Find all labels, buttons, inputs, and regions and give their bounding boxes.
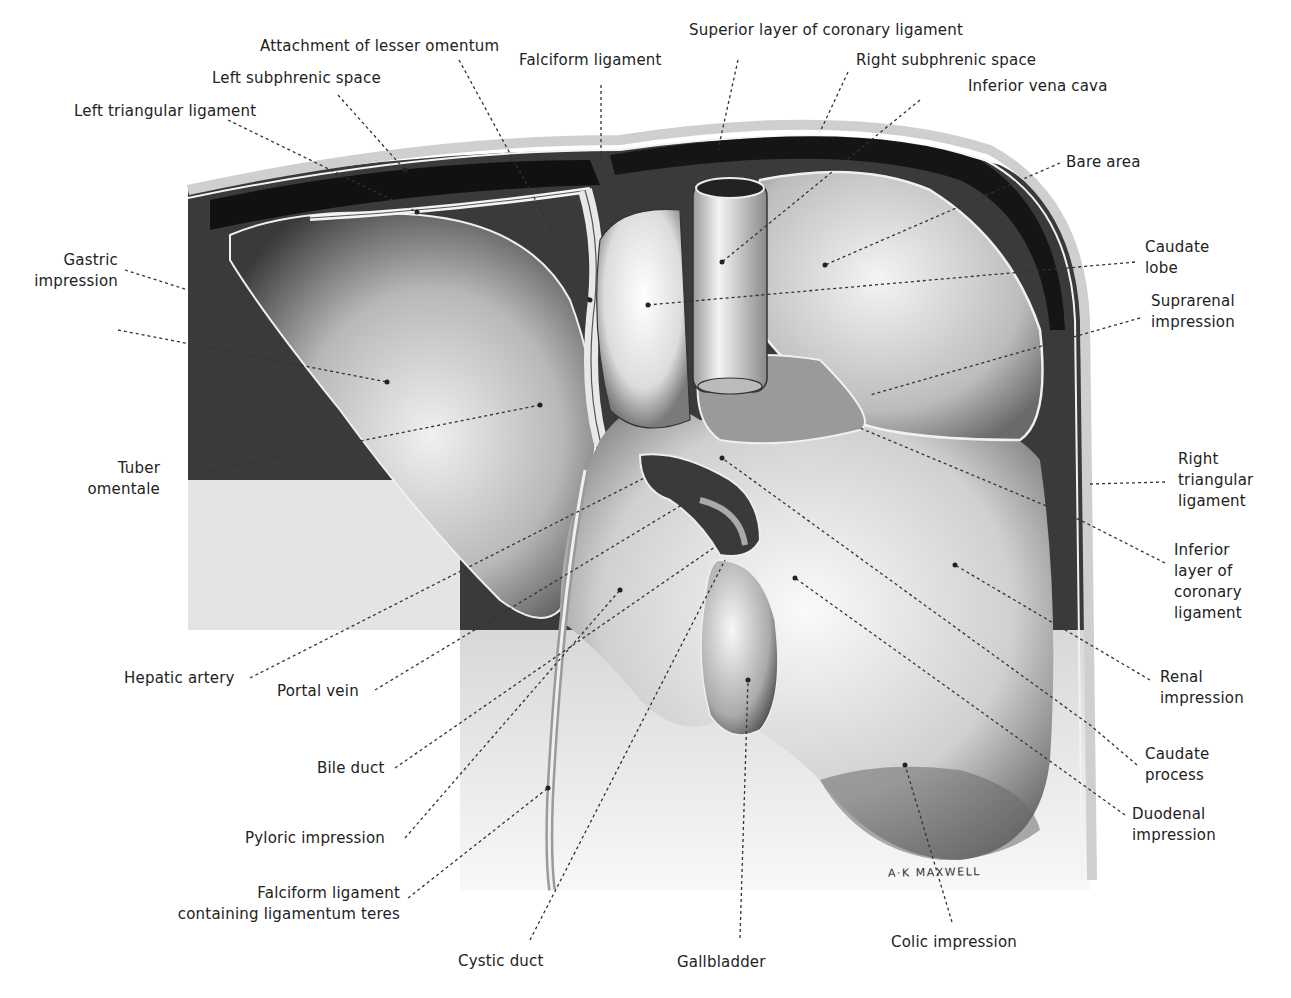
label-colic-impression: Colic impression: [891, 932, 1017, 953]
caudate-lobe: [597, 209, 690, 428]
label-attachment-lesser-omentum: Attachment of lesser omentum: [260, 36, 499, 57]
label-bare-area: Bare area: [1066, 152, 1141, 173]
label-right-triangular-ligament: Right triangular ligament: [1178, 449, 1253, 512]
label-right-subphrenic-space: Right subphrenic space: [856, 50, 1036, 71]
label-inferior-vena-cava: Inferior vena cava: [968, 76, 1108, 97]
ivc-bottom-opening: [698, 378, 762, 394]
label-cystic-duct: Cystic duct: [458, 951, 544, 972]
label-falciform-ligament: Falciform ligament: [519, 50, 662, 71]
label-superior-coronary-ligament: Superior layer of coronary ligament: [689, 20, 963, 41]
label-left-subphrenic-space: Left subphrenic space: [212, 68, 381, 89]
ivc-top-opening: [696, 178, 764, 198]
artist-signature: A·K MAXWELL: [888, 865, 981, 880]
liver-illustration: [0, 0, 1291, 998]
label-portal-vein: Portal vein: [277, 681, 359, 702]
label-gallbladder: Gallbladder: [677, 952, 766, 973]
label-falciform-ligament-teres: Falciform ligament containing ligamentum…: [150, 883, 400, 925]
label-hepatic-artery: Hepatic artery: [124, 668, 235, 689]
label-caudate-process: Caudate process: [1145, 744, 1209, 786]
inferior-vena-cava: [693, 182, 767, 392]
label-duodenal-impression: Duodenal impression: [1132, 804, 1216, 846]
label-caudate-lobe: Caudate lobe: [1145, 237, 1209, 279]
label-tuber-omentale: Tuber omentale: [70, 458, 160, 500]
label-pyloric-impression: Pyloric impression: [245, 828, 385, 849]
label-renal-impression: Renal impression: [1160, 667, 1244, 709]
label-bile-duct: Bile duct: [317, 758, 385, 779]
label-left-triangular-ligament: Left triangular ligament: [74, 101, 256, 122]
label-gastric-impression: Gastric impression: [22, 250, 118, 292]
label-inferior-coronary-ligament: Inferior layer of coronary ligament: [1174, 540, 1242, 624]
label-suprarenal-impression: Suprarenal impression: [1151, 291, 1235, 333]
